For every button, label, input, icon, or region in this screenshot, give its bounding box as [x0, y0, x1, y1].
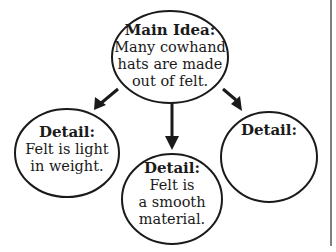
detail-right-title: Detail: — [221, 122, 317, 139]
arrow-to-left-detail — [94, 89, 118, 110]
detail-node-right: Detail: — [221, 122, 317, 139]
detail-left-title: Detail: — [17, 124, 117, 141]
detail-left-body: Felt is light in weight. — [17, 141, 117, 175]
idea-web-diagram: Main Idea: Many cowhand hats are made ou… — [0, 0, 336, 252]
arrow-to-right-detail — [223, 89, 242, 111]
main-idea-body: Many cowhand hats are made out of felt. — [112, 39, 228, 90]
detail-node-left: Detail: Felt is light in weight. — [17, 124, 117, 175]
arrow-to-middle-detail — [165, 103, 179, 150]
main-idea-title: Main Idea: — [112, 22, 228, 39]
detail-node-middle: Detail: Felt is a smooth material. — [122, 160, 222, 228]
detail-middle-title: Detail: — [122, 160, 222, 177]
detail-middle-body: Felt is a smooth material. — [122, 177, 222, 228]
main-idea-node: Main Idea: Many cowhand hats are made ou… — [112, 22, 228, 90]
